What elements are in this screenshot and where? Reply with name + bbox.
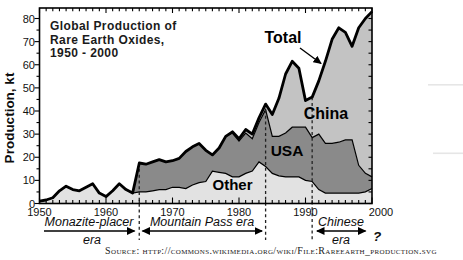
y-tick-label: 20: [23, 151, 35, 163]
chart-title-line3: 1950 - 2000: [50, 46, 118, 60]
other-label: Other: [212, 176, 252, 193]
total-label: Total: [264, 29, 301, 46]
page-artifact-line-top: [428, 84, 463, 86]
china-label: China: [304, 105, 349, 122]
y-tick-label: 70: [23, 36, 35, 48]
era-monazite-label: Monazite-placer: [45, 215, 135, 229]
era-mountain-label: Mountain Pass era: [150, 215, 254, 229]
chart-figure: 195019601970198019902000 010203040506070…: [0, 0, 463, 260]
chart-title-line2: Rare Earth Oxides,: [50, 33, 165, 47]
era-question-mark: ?: [373, 229, 381, 244]
y-tick-label: 80: [23, 13, 35, 25]
y-tick-label: 10: [23, 174, 35, 186]
page-artifact-line-bottom: [433, 153, 463, 155]
x-tick-label: 2000: [369, 206, 393, 218]
rare-earth-production-chart: 195019601970198019902000 010203040506070…: [0, 0, 463, 260]
era-monazite-label2: era: [83, 233, 101, 247]
y-tick-label: 0: [29, 198, 35, 210]
y-tick-label: 60: [23, 59, 35, 71]
era-chinese-label: Chinese: [318, 215, 364, 229]
y-tick-labels: 01020304050607080: [23, 13, 35, 210]
usa-label: USA: [271, 142, 304, 159]
total-arrow: [300, 48, 321, 64]
y-tick-label: 50: [23, 82, 35, 94]
x-tick-label: 1990: [293, 206, 317, 218]
y-tick-label: 30: [23, 128, 35, 140]
y-tick-label: 40: [23, 105, 35, 117]
y-axis-title: Production, kt: [2, 72, 17, 163]
source-caption: Source: http://commons.wikimedia.org/wik…: [105, 245, 437, 256]
chart-title-line1: Global Production of: [50, 19, 177, 33]
